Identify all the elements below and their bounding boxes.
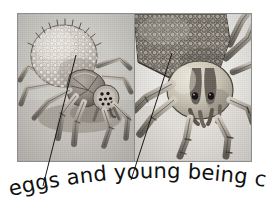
panel-divider [134,14,135,161]
right-panel-artwork [134,14,252,161]
left-panel-artwork [18,14,134,161]
figure-root: eggs and young being carried [0,0,270,215]
caption: eggs and young being carried [0,163,270,215]
illustration-frame [17,13,252,162]
panel-left-spider-with-egg-sac [18,14,134,161]
panel-right-spiderlings-close-up [134,14,252,161]
caption-svg: eggs and young being carried [0,163,270,215]
caption-text: eggs and young being carried [0,163,268,201]
